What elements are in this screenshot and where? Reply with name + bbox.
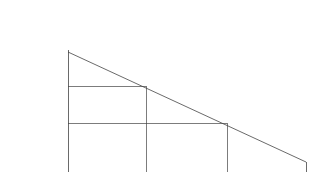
gradient-diagram xyxy=(0,0,319,195)
